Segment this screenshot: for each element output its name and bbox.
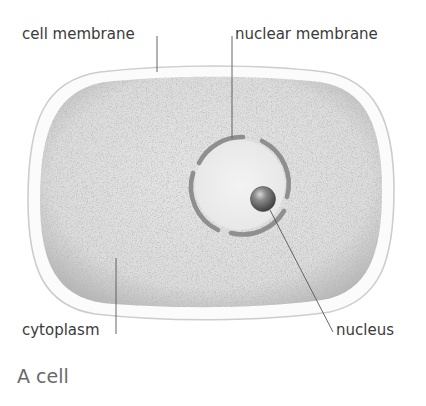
label-nucleus: nucleus: [336, 323, 394, 338]
nuclear-interior: [195, 140, 285, 230]
label-nuclear-membrane: nuclear membrane: [235, 27, 378, 42]
label-cell-membrane: cell membrane: [22, 27, 135, 42]
cell-diagram: [0, 0, 426, 406]
figure-caption: A cell: [17, 367, 69, 386]
nucleus-sphere: [251, 187, 276, 212]
label-cytoplasm: cytoplasm: [22, 323, 100, 338]
